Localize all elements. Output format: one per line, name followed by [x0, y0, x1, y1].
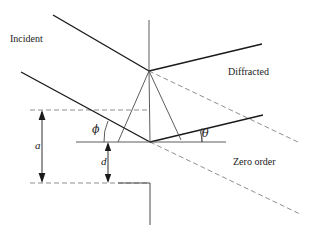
incident-ray-upper	[53, 15, 149, 71]
label-incident: Incident	[10, 34, 43, 44]
path-line-left	[118, 71, 149, 142]
diffraction-grating-diagram: Incident Diffracted Zero order ϕ θ a d	[0, 0, 316, 230]
zero-order-dashed-group	[149, 71, 300, 214]
diagram-canvas	[0, 0, 316, 230]
label-dimension-a: a	[35, 140, 41, 151]
label-zero-order: Zero order	[233, 157, 275, 167]
incident-ray-lower	[21, 72, 150, 142]
label-theta-angle: θ	[202, 128, 209, 139]
dimension-a-arrowhead-bottom	[39, 173, 46, 183]
label-dimension-d: d	[101, 156, 107, 167]
reference-dashed-group	[30, 110, 150, 183]
label-diffracted: Diffracted	[228, 67, 269, 77]
zero-order-line-upper	[149, 71, 300, 143]
dimension-a-arrowhead-top	[39, 110, 46, 120]
path-line-vertical	[149, 71, 150, 142]
substrate-step-outline	[118, 183, 150, 225]
zero-order-line-lower	[150, 142, 300, 214]
path-line-right	[149, 71, 181, 140]
dimension-d-arrowhead-top	[105, 142, 111, 151]
label-phi-angle: ϕ	[92, 124, 100, 135]
phi-angle-arc	[104, 121, 108, 142]
dimension-d-arrowhead-bottom	[105, 174, 111, 183]
angle-arcs-group	[104, 121, 202, 142]
